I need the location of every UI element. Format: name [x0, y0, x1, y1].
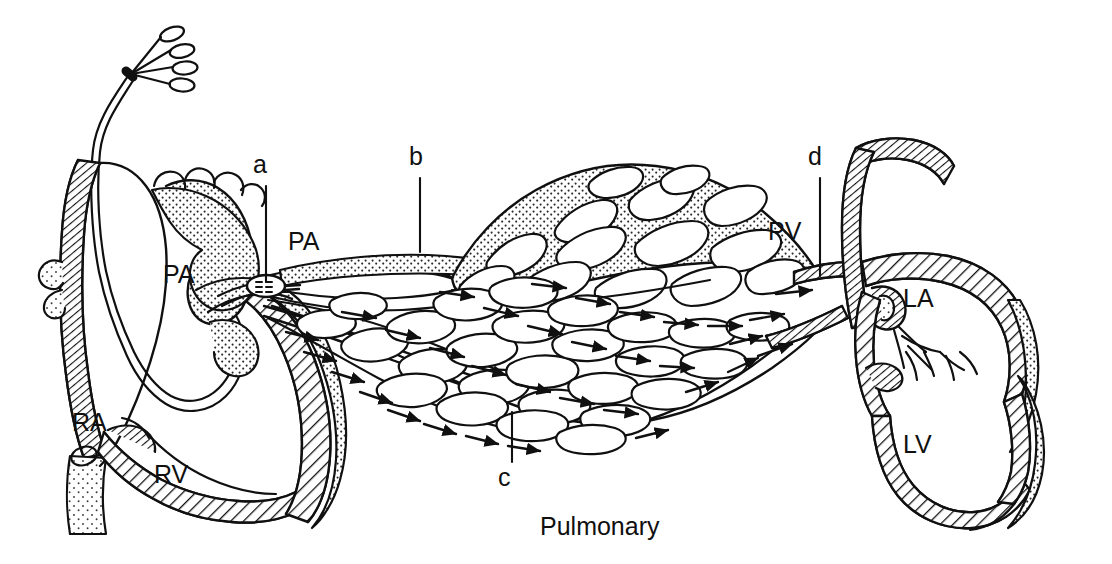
callout-label-a: a	[253, 152, 267, 177]
structure-label-lv: LV	[903, 432, 932, 457]
callout-label-c: c	[498, 465, 511, 490]
structure-label-pa-proximal: PA	[163, 262, 195, 287]
structure-label-la: LA	[903, 286, 934, 311]
structure-label-pa-distal: PA	[288, 229, 320, 254]
structure-label-rv: RV	[154, 462, 188, 487]
figure-canvas: a b c d PA PA RA RV PV LA LV Pulmonary c…	[0, 0, 1112, 564]
structure-label-pv: PV	[768, 219, 801, 244]
callout-label-b: b	[409, 144, 423, 169]
lower-capillary-bed-perfused	[268, 277, 816, 454]
catheter-hub-ports	[126, 24, 198, 93]
caption-line-1: Pulmonary	[540, 511, 660, 542]
caption-pulmonary-capillaries: Pulmonary capillaries	[540, 450, 660, 564]
structure-label-ra: RA	[72, 410, 107, 435]
callout-label-d: d	[808, 144, 822, 169]
